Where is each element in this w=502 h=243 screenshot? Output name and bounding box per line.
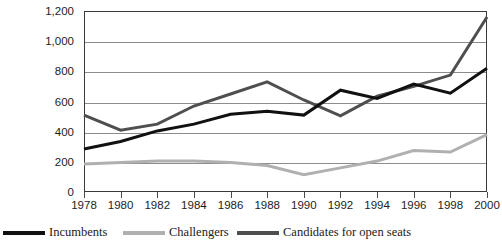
chart-legend: Incumbents Challengers Candidates for op…: [0, 222, 502, 243]
legend-swatch-challengers: [123, 231, 165, 235]
x-tick-label: 1982: [144, 199, 170, 211]
x-tick-mark: [121, 192, 122, 198]
x-tick-label: 1994: [364, 199, 390, 211]
y-tick-label: 1,000: [45, 35, 74, 47]
y-tick-label: 800: [55, 65, 74, 77]
x-tick-label: 2000: [474, 199, 500, 211]
series-line-challengers: [84, 135, 487, 175]
x-tick-label: 1980: [108, 199, 134, 211]
series-line-incumbents: [84, 68, 487, 149]
legend-label-open-seats: Candidates for open seats: [283, 225, 411, 240]
x-tick-mark: [450, 192, 451, 198]
x-tick-mark: [231, 192, 232, 198]
x-tick-label: 1988: [254, 199, 280, 211]
x-tick-mark: [194, 192, 195, 198]
x-tick-mark: [340, 192, 341, 198]
x-tick-label: 1996: [401, 199, 427, 211]
legend-item-challengers[interactable]: Challengers: [123, 222, 229, 243]
series-layer: [84, 11, 487, 192]
x-tick-mark: [414, 192, 415, 198]
x-tick-mark: [267, 192, 268, 198]
x-tick-label: 1984: [181, 199, 207, 211]
legend-label-challengers: Challengers: [169, 225, 229, 240]
legend-label-incumbents: Incumbents: [49, 225, 107, 240]
y-axis-labels: 02004006008001,0001,200: [0, 0, 78, 203]
legend-swatch-open-seats: [237, 231, 279, 235]
y-tick-label: 600: [55, 96, 74, 108]
x-tick-label: 1986: [218, 199, 244, 211]
legend-item-open-seats[interactable]: Candidates for open seats: [237, 222, 411, 243]
x-tick-label: 1998: [438, 199, 464, 211]
x-axis-labels: 1978198019821984198619881990199219941996…: [0, 199, 502, 217]
x-tick-mark: [377, 192, 378, 198]
x-tick-mark: [84, 192, 85, 198]
x-tick-label: 1978: [71, 199, 97, 211]
legend-swatch-incumbents: [3, 231, 45, 235]
x-tick-label: 1992: [328, 199, 354, 211]
legend-item-incumbents[interactable]: Incumbents: [3, 222, 107, 243]
y-tick-label: 200: [55, 156, 74, 168]
y-tick-label: 1,200: [45, 5, 74, 17]
x-tick-label: 1990: [291, 199, 317, 211]
x-tick-mark: [487, 192, 488, 198]
line-chart: 02004006008001,0001,200 1978198019821984…: [0, 0, 502, 243]
x-tick-mark: [157, 192, 158, 198]
x-tick-mark: [304, 192, 305, 198]
y-tick-label: 400: [55, 126, 74, 138]
y-tick-label: 0: [68, 186, 74, 198]
x-axis-ticks: [84, 192, 487, 199]
